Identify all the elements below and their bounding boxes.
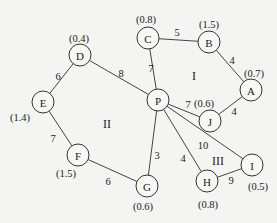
node-c: C xyxy=(137,27,159,49)
node-label: J xyxy=(208,116,213,128)
node-label: A xyxy=(247,85,255,97)
edge-weight-label: 10 xyxy=(198,140,209,151)
edge-d-e xyxy=(50,64,73,94)
node-label: E xyxy=(40,97,47,109)
edge-line xyxy=(88,160,137,182)
node-h: H xyxy=(196,170,218,192)
edge-weight-label: 7 xyxy=(50,133,55,144)
node-label: C xyxy=(144,33,151,45)
region-label: III xyxy=(212,154,224,168)
node-label: I xyxy=(250,160,254,172)
edge-weight-label: 9 xyxy=(228,175,233,186)
node-value-label: (1.5) xyxy=(199,19,220,31)
node-value-label: (0.7) xyxy=(244,68,265,80)
edge-line xyxy=(50,64,73,94)
node-value-label: (0.4) xyxy=(69,33,90,45)
node-label: F xyxy=(75,150,81,162)
edge-weight-label: 4 xyxy=(231,106,237,117)
edge-weight-label: 6 xyxy=(105,176,110,187)
node-value-label: (0.6) xyxy=(194,98,215,110)
edge-c-b xyxy=(159,39,198,42)
node-i: I xyxy=(241,154,263,176)
node-value-label: (0.8) xyxy=(198,199,219,211)
node-label: H xyxy=(203,176,211,188)
node-value-label: (0.8) xyxy=(136,14,157,26)
edge-weight-label: 8 xyxy=(118,68,123,79)
edge-weight-label: 6 xyxy=(55,71,60,82)
node-value-label: (0.6) xyxy=(133,201,154,213)
node-e: E xyxy=(32,91,54,113)
edge-weight-label: 7 xyxy=(185,99,190,110)
node-a: A xyxy=(240,79,262,101)
node-label: G xyxy=(143,181,151,193)
edge-weight-label: 4 xyxy=(180,153,186,164)
node-label: P xyxy=(155,95,161,107)
region-label: I xyxy=(192,69,196,83)
edge-p-g xyxy=(148,111,156,175)
edge-weight-label: 5 xyxy=(174,27,179,38)
graph-canvas: 54478676734109 ABCDEFGHIJP (0.7)(1.5)(0.… xyxy=(0,0,277,223)
region-label: II xyxy=(103,117,111,131)
edge-weight-label: 4 xyxy=(229,55,235,66)
edge-weight-label: 7 xyxy=(148,63,153,74)
graph-diagram: 54478676734109 ABCDEFGHIJP (0.7)(1.5)(0.… xyxy=(0,0,277,223)
node-value-label: (0.5) xyxy=(248,181,269,193)
edge-f-g xyxy=(88,160,137,182)
node-g: G xyxy=(136,175,158,197)
node-label: B xyxy=(205,37,212,49)
node-d: D xyxy=(69,44,91,66)
node-p: P xyxy=(147,89,169,111)
node-f: F xyxy=(67,144,89,166)
node-b: B xyxy=(198,31,220,53)
node-label: D xyxy=(76,50,84,62)
node-j: J xyxy=(199,110,221,132)
node-value-label: (1.5) xyxy=(56,168,77,180)
edge-weight-label: 3 xyxy=(154,150,159,161)
edge-line xyxy=(148,111,156,175)
edge-line xyxy=(159,39,198,42)
node-value-label: (1.4) xyxy=(10,112,31,124)
